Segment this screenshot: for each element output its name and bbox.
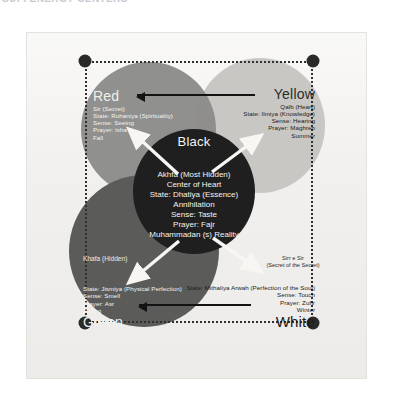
dot-top-left: [79, 55, 92, 68]
region-black-line-5: Sense: Taste: [123, 210, 265, 220]
region-yellow-line-1: Qalb (Heart): [167, 103, 315, 110]
region-green-line-1: State: Jismiya (Physical Perfection): [83, 285, 182, 292]
region-red-label: Red: [93, 88, 173, 105]
region-red-line-1: Sir (Secret): [93, 105, 173, 112]
dot-top-right: [307, 55, 320, 68]
region-yellow-line-3: Sense: Hearing: [167, 117, 315, 124]
region-white-line-1: State: Mithaliya Arwah (Perfection of th…: [177, 284, 315, 291]
region-red-line-3: Sense: Seeing: [93, 119, 173, 126]
region-black-text: Akhfa (Most Hidden) Center of Heart Stat…: [123, 170, 265, 241]
sirresir-line-1: Sirr e Sir: [243, 255, 343, 262]
region-black-label: Black: [133, 134, 255, 149]
region-black-line-7: Muhammadan (s) Reality: [123, 230, 265, 240]
region-white-line-3: Prayer: Zuhr: [177, 299, 315, 306]
khafa-hidden-text: Khafa (Hidden): [83, 255, 127, 263]
region-black-line-2: Center of Heart: [123, 180, 265, 190]
region-black-line-6: Prayer: Fajr: [123, 220, 265, 230]
region-yellow-text: Yellow Qalb (Heart) State: Ilmiya (Knowl…: [167, 86, 315, 139]
region-white-line-2: Sense: Touch: [177, 291, 315, 298]
header-title-text: SUFI ENERGY CENTERS: [2, 0, 128, 4]
region-yellow-line-4: Prayer: Maghreb: [167, 124, 315, 131]
region-black-line-1: Akhfa (Most Hidden): [123, 170, 265, 180]
region-green-label: Green: [83, 314, 182, 331]
region-white-label: White: [177, 313, 315, 331]
region-green-text: State: Jismiya (Physical Perfection) Sen…: [83, 285, 182, 331]
region-white-secret-label: Sirr e Sir (Secret of the Secret): [243, 255, 343, 268]
region-red-line-2: State: Ruhaniya (Spirituality): [93, 112, 173, 119]
region-red-line-4: Prayer: Isha: [93, 126, 173, 133]
scanned-page: Red Sir (Secret) State: Ruhaniya (Spirit…: [27, 33, 366, 378]
region-black-title: Black: [133, 134, 255, 149]
region-green-hidden-label: Khafa (Hidden): [83, 255, 127, 263]
region-white-text: State: Mithaliya Arwah (Perfection of th…: [177, 284, 315, 331]
region-yellow-line-2: State: Ilmiya (Knowledge): [167, 110, 315, 117]
region-yellow-label: Yellow: [167, 86, 315, 103]
region-green-line-4: Spring: [83, 307, 182, 314]
region-green-line-3: Prayer: Asr: [83, 300, 182, 307]
sufi-lataif-diagram: Red Sir (Secret) State: Ruhaniya (Spirit…: [27, 33, 366, 378]
region-green-line-2: Sense: Smell: [83, 292, 182, 299]
sirresir-line-2: (Secret of the Secret): [243, 262, 343, 269]
region-white-line-4: Winter: [177, 306, 315, 313]
page-header-fragment: SUFI ENERGY CENTERS: [0, 0, 160, 10]
region-black-line-4: Annihilation: [123, 200, 265, 210]
region-black-line-3: State: Dhatiya (Essence): [123, 190, 265, 200]
